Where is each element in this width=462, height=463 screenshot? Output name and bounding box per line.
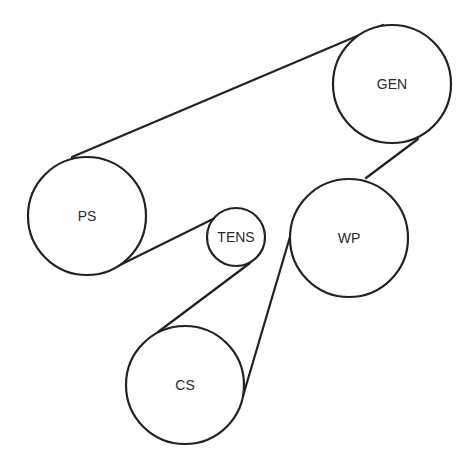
pulley-ps-label: PS <box>78 208 97 224</box>
pulley-cs: CS <box>126 326 244 444</box>
pulley-tens-label: TENS <box>217 229 254 245</box>
pulley-tens: TENS <box>207 208 265 266</box>
pulley-ps: PS <box>28 157 146 275</box>
belt-segment-gen-wp <box>366 139 418 178</box>
pulley-gen: GEN <box>333 25 451 143</box>
belt-segment-cs-tens <box>158 263 250 332</box>
pulley-wp: WP <box>290 179 408 297</box>
pulley-wp-label: WP <box>338 230 361 246</box>
pulley-cs-label: CS <box>175 377 194 393</box>
pulley-gen-label: GEN <box>377 76 407 92</box>
belt-routing-diagram: GEN PS TENS WP CS <box>0 0 462 463</box>
